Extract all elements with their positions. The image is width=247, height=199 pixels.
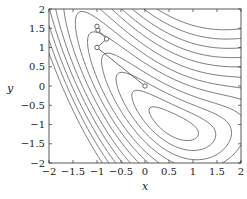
y-tick-label: −1.5 xyxy=(21,138,45,149)
y-tick-labels: −2−1.5−1−0.500.511.52 xyxy=(21,4,45,169)
y-tick-label: 1 xyxy=(39,42,45,53)
x-tick-label: 0 xyxy=(142,166,148,177)
y-tick-label: 2 xyxy=(39,4,45,15)
contour-line xyxy=(88,32,241,163)
y-tick-label: −2 xyxy=(30,158,45,169)
x-tick-labels: −2−1.5−1−0.500.511.52 xyxy=(42,166,245,177)
path-point-marker xyxy=(104,37,108,41)
contour-chart: −2−1.5−1−0.500.511.52 −2−1.5−1−0.500.511… xyxy=(0,0,247,199)
x-tick-label: 1 xyxy=(190,166,196,177)
y-tick-label: 1.5 xyxy=(29,23,45,34)
x-tick-label: −1 xyxy=(90,166,105,177)
x-tick-label: 1.5 xyxy=(209,166,225,177)
y-tick-label: −1 xyxy=(30,119,45,130)
y-axis-label: y xyxy=(6,82,14,95)
contour-line xyxy=(149,107,198,141)
y-tick-label: 0.5 xyxy=(29,61,45,72)
path-point-marker xyxy=(95,45,99,49)
x-axis-label: x xyxy=(142,180,149,193)
x-tick-label: 2 xyxy=(238,166,244,177)
contour-line xyxy=(56,9,241,163)
path-point-marker xyxy=(95,24,99,28)
x-tick-label: 0.5 xyxy=(161,166,177,177)
path-point-marker xyxy=(143,84,147,88)
y-tick-label: −0.5 xyxy=(21,100,45,111)
contour-line xyxy=(116,72,231,159)
x-tick-label: −1.5 xyxy=(61,166,85,177)
x-tick-label: −0.5 xyxy=(109,166,133,177)
y-tick-label: 0 xyxy=(39,81,45,92)
